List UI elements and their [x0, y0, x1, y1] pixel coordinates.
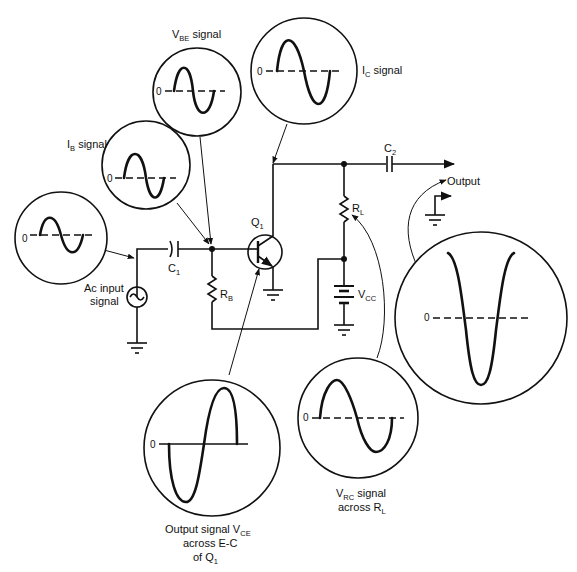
svg-text:VBE signal: VBE signal: [172, 28, 221, 43]
svg-text:RB: RB: [220, 288, 233, 303]
amplifier-diagram: Ac input signal C1 RB: [0, 0, 577, 572]
svg-text:IC signal: IC signal: [362, 64, 402, 79]
ground-icon: [127, 343, 147, 353]
svg-text:0: 0: [257, 66, 263, 77]
svg-text:0: 0: [107, 173, 113, 184]
svg-text:IB signal: IB signal: [67, 138, 107, 153]
battery-vcc: VCC: [334, 259, 377, 335]
svg-text:0: 0: [22, 233, 28, 244]
capacitor-c1: C1: [168, 241, 212, 277]
transistor-q1: Q1: [248, 164, 283, 300]
scope-vbe: 0 VBE signal: [153, 28, 241, 136]
resistor-rl: RL: [340, 164, 364, 259]
output-label: Output: [447, 175, 480, 187]
svg-text:0: 0: [150, 439, 156, 450]
svg-text:0: 0: [424, 312, 430, 323]
scope-ib: 0 IB signal: [67, 121, 190, 209]
scope-vrc: 0 VRC signal across RL: [298, 358, 418, 516]
scope-output: 0: [395, 232, 567, 404]
scope-ic: 0 IC signal: [251, 18, 402, 124]
svg-text:across RL: across RL: [338, 501, 386, 516]
svg-text:VCC: VCC: [358, 288, 377, 303]
source-label-line1: Ac input: [84, 282, 124, 294]
scope-vce: 0 Output signal VCE across E-C of Q1: [144, 380, 280, 566]
svg-text:C2: C2: [384, 142, 396, 157]
output-ground-icon: [425, 196, 451, 225]
source-label-line2: signal: [90, 295, 119, 307]
svg-text:across E-C: across E-C: [183, 537, 237, 549]
svg-text:Q1: Q1: [251, 216, 264, 231]
svg-text:VRC signal: VRC signal: [336, 487, 386, 502]
capacitor-c2: C2: [344, 142, 454, 172]
svg-text:of Q1: of Q1: [193, 551, 218, 566]
svg-text:Output signal VCE: Output signal VCE: [165, 523, 251, 538]
scope-ac-input: 0: [15, 192, 107, 284]
ground-icon: [263, 290, 283, 300]
svg-text:RL: RL: [352, 202, 364, 217]
ground-icon: [334, 325, 354, 335]
resistor-rb: RB: [208, 249, 344, 329]
svg-text:C1: C1: [168, 262, 180, 277]
svg-text:0: 0: [156, 86, 162, 97]
svg-text:0: 0: [303, 412, 309, 423]
